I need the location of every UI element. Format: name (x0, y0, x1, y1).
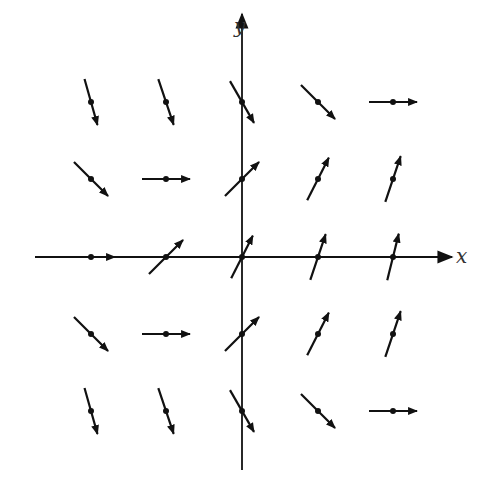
grid-point-dot (315, 99, 321, 105)
grid-point-dot (315, 254, 321, 260)
vector-arrow (301, 394, 335, 428)
grid-point-dot (315, 176, 321, 182)
grid-point-dot (390, 331, 396, 337)
vector-arrow (142, 331, 190, 337)
grid-point-dot (88, 408, 94, 414)
grid-point-dot (390, 99, 396, 105)
x-axis-label: x (456, 244, 467, 268)
grid-point-dot (163, 254, 169, 260)
vector-arrow (85, 388, 98, 434)
grid-point-dot (390, 254, 396, 260)
vector-arrow (307, 313, 329, 356)
grid-point-dot (163, 408, 169, 414)
vector-arrow (385, 311, 400, 357)
axes (35, 14, 452, 470)
grid-point-dot (239, 176, 245, 182)
vector-arrow (301, 85, 335, 119)
vector-arrow (158, 79, 173, 125)
vector-arrow (158, 388, 173, 434)
vector-arrow (307, 158, 329, 201)
vector-arrow (369, 408, 417, 414)
grid-point-dot (163, 99, 169, 105)
vector-arrow (85, 79, 98, 125)
vector-arrow (385, 156, 400, 202)
grid-point-dot (239, 99, 245, 105)
grid-point-dot (239, 408, 245, 414)
vector-arrow (142, 176, 190, 182)
grid-point-dot (88, 176, 94, 182)
grid-point-dot (163, 176, 169, 182)
y-axis-label: y (234, 14, 245, 38)
grid-point-dot (315, 408, 321, 414)
vector-arrow (369, 99, 417, 105)
grid-point-dot (390, 176, 396, 182)
vector-arrow (74, 317, 108, 351)
grid-point-dot (239, 331, 245, 337)
direction-field (0, 0, 494, 491)
grid-point-dot (163, 331, 169, 337)
vector-arrow (74, 162, 108, 196)
grid-point-dot (239, 254, 245, 260)
vector-arrow (67, 254, 115, 260)
grid-point-dot (88, 99, 94, 105)
grid-point-dot (390, 408, 396, 414)
grid-point-dot (315, 331, 321, 337)
grid-point-dot (88, 331, 94, 337)
grid-point-dot (88, 254, 94, 260)
